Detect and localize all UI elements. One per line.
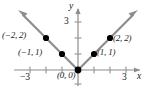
y-tick-label-3: 3	[64, 16, 69, 26]
data-point-0-0	[75, 67, 82, 74]
x-tick-label-neg3: −3	[20, 72, 30, 82]
absolute-value-graph-figure: (−2, 2) (−1, 1) (0, 0) (1, 1) (2, 2) −3 …	[0, 0, 149, 99]
point-label-2-2: (2, 2)	[113, 33, 131, 43]
x-axis-label: x	[137, 71, 141, 81]
y-axis	[75, 8, 82, 86]
point-label-neg1-1: (−1, 1)	[18, 47, 42, 57]
x-tick-label-3: 3	[122, 72, 127, 82]
y-axis-arrow-icon	[75, 8, 80, 14]
data-point-neg2-2	[43, 35, 49, 41]
data-point-neg1-1	[59, 51, 65, 57]
point-label-neg2-2: (−2, 2)	[2, 30, 26, 40]
point-label-origin: (0, 0)	[57, 70, 75, 80]
point-label-1-1: (1, 1)	[97, 47, 115, 57]
y-axis-label: y	[69, 1, 73, 11]
